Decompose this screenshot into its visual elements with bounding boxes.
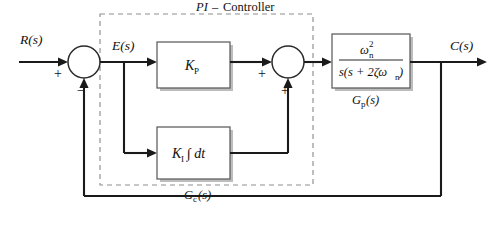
plant-denominator-base: s(s + 2ζω [339,65,387,79]
diagram-canvas: PI – Controller G c (s) R(s) + − E(s) K … [0,0,497,227]
controller-summer-plus-sign-left: + [258,66,266,81]
plant-numerator-sup: 2 [369,39,374,49]
output-wire-arrowhead [477,57,487,66]
controller-summer-plus-sign-bottom: + [281,83,289,98]
error-signal-label: E(s) [111,38,135,53]
proportional-gain-label-sub: P [194,66,199,76]
controller-output-arrowhead [322,57,332,66]
error-summing-junction [68,46,100,78]
block-diagram-figure: PI – Controller G c (s) R(s) + − E(s) K … [0,0,497,227]
pi-controller-title-dash: – [211,0,219,14]
integral-operator-label: ∫ dt [186,146,206,162]
integral-branch-arrowhead [147,148,157,157]
input-signal-label: R(s) [19,32,43,47]
output-signal-label: C(s) [450,38,474,53]
plant-denominator-tail: ) [398,65,403,79]
controller-summing-junction [272,46,304,78]
plant-numerator-sub: n [369,50,374,60]
pi-controller-title-italic: PI [195,0,209,14]
plant-transfer-label-tail: (s) [366,93,379,107]
plant-transfer-label-base: G [352,93,361,107]
integral-gain-label-sub: I [181,154,184,164]
plant-numerator-base: ω [360,43,369,57]
error-summer-plus-sign: + [54,66,62,81]
pi-controller-title-roman: Controller [223,0,275,14]
error-wire-arrowhead [147,57,157,66]
